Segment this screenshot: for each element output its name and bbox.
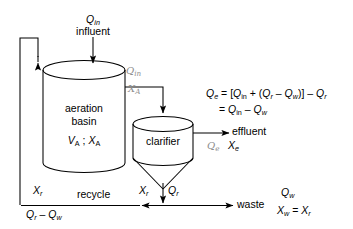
- effluent-equation-line2: = Qin – Qw: [219, 104, 267, 115]
- waste-flow: Qw: [281, 187, 294, 198]
- aeration-basin-top-ellipse: [43, 61, 125, 80]
- aeration-basin-parameters: VA ; XA: [46, 135, 122, 146]
- waste-label: waste: [237, 199, 264, 210]
- effluent-equation-line1: Qe = [Qin + (Qr – Qw)] – Qr: [206, 88, 327, 99]
- underflow-flow: Qr: [168, 185, 179, 196]
- clarifier-bottom-ellipse-front: [133, 158, 193, 166]
- clarifier-label: clarifier: [133, 136, 193, 147]
- recycle-label: recycle: [77, 189, 110, 200]
- aeration-basin-label-line2: basin: [46, 116, 122, 127]
- underflow-concentration: Xr: [139, 185, 148, 196]
- clarifier-top-ellipse: [133, 117, 193, 132]
- recycle-flow: Qr – Qw: [26, 209, 62, 220]
- aeration-basin-bottom: [43, 163, 125, 173]
- effluent-flow-annotation: Qe: [207, 141, 219, 152]
- effluent-label: effluent: [232, 126, 266, 137]
- influent-label: influent: [62, 26, 124, 37]
- basin-outlet-flow-annotation: Qin: [126, 66, 141, 77]
- basin-outlet-conc-annotation: XA: [128, 84, 140, 95]
- waste-concentration: Xw = Xr: [277, 205, 311, 216]
- effluent-concentration: Xe: [228, 140, 239, 151]
- influent-flow-symbol: Qin: [72, 14, 114, 25]
- recycle-concentration: Xr: [33, 185, 42, 196]
- aeration-basin-label-line1: aeration: [46, 103, 122, 114]
- process-flow-diagram: Qin influent aeration basin VA ; XA clar…: [0, 0, 353, 229]
- recycle-loop-path: [20, 38, 38, 205]
